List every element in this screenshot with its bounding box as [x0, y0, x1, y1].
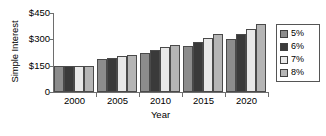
- bar: [256, 24, 266, 92]
- x-tick-label: 2020: [225, 95, 269, 106]
- bar: [246, 29, 256, 92]
- y-tick-label: 0: [16, 86, 50, 97]
- x-tick-label: 2005: [96, 95, 140, 106]
- legend-label: 7%: [291, 55, 304, 64]
- legend-label: 8%: [291, 68, 304, 77]
- legend-item: 7%: [280, 53, 317, 66]
- bar-chart: Simple Interest 0$150$300$450 2000200520…: [0, 0, 326, 136]
- y-tick-label: $300: [16, 33, 50, 44]
- bar: [226, 39, 236, 92]
- bar-group: [139, 13, 182, 92]
- bar: [160, 47, 170, 92]
- plot-area: 20002005201020152020 Year: [53, 13, 268, 92]
- x-tick-mark: [96, 93, 97, 97]
- y-tick-mark: [49, 92, 53, 93]
- legend-swatch-icon: [280, 43, 288, 51]
- x-tick-label: 2000: [53, 95, 97, 106]
- legend-item: 5%: [280, 27, 317, 40]
- legend-item: 6%: [280, 40, 317, 53]
- x-tick-label: 2015: [182, 95, 226, 106]
- bar: [150, 50, 160, 92]
- bar-group: [182, 13, 225, 92]
- bar: [84, 66, 94, 92]
- bar: [183, 46, 193, 92]
- x-axis-line: [53, 92, 269, 93]
- bar: [127, 55, 137, 92]
- legend-label: 6%: [291, 42, 304, 51]
- y-tick-mark: [49, 39, 53, 40]
- x-tick-label: 2010: [139, 95, 183, 106]
- bar: [54, 66, 64, 92]
- bar-group: [96, 13, 139, 92]
- bar: [97, 59, 107, 92]
- y-tick-label: $150: [16, 60, 50, 71]
- legend-swatch-icon: [280, 30, 288, 38]
- bar: [170, 45, 180, 92]
- y-tick-mark: [49, 13, 53, 14]
- x-tick-mark: [225, 93, 226, 97]
- bar: [107, 58, 117, 92]
- x-axis-title: Year: [53, 109, 268, 120]
- bar: [213, 34, 223, 92]
- legend: 5%6%7%8%: [276, 24, 320, 82]
- legend-swatch-icon: [280, 56, 288, 64]
- legend-swatch-icon: [280, 69, 288, 77]
- bar-group: [225, 13, 268, 92]
- y-tick-label: $450: [16, 7, 50, 18]
- bar: [140, 53, 150, 93]
- y-tick-mark: [49, 66, 53, 67]
- bar: [117, 56, 127, 92]
- bar: [203, 38, 213, 92]
- legend-item: 8%: [280, 66, 317, 79]
- legend-label: 5%: [291, 29, 304, 38]
- y-axis-tick-labels: 0$150$300$450: [14, 0, 50, 136]
- bar: [64, 66, 74, 92]
- x-tick-mark: [182, 93, 183, 97]
- x-tick-mark: [139, 93, 140, 97]
- bar: [236, 34, 246, 92]
- bar: [74, 66, 84, 92]
- bar: [193, 42, 203, 92]
- bar-group: [53, 13, 96, 92]
- x-tick-mark: [268, 93, 269, 97]
